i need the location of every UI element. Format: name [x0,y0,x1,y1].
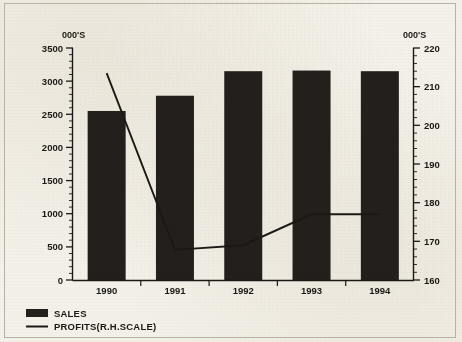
x-tick-label: 1991 [164,285,186,296]
bar-1992 [224,71,262,280]
sales-profits-combo-chart: 000'S [0,0,462,342]
right-axis-tick-labels: 220 210 200 190 180 170 160 [424,43,440,286]
right-tick-label: 160 [424,275,440,286]
left-tick-label: 3000 [42,76,63,87]
left-tick-label: 2500 [42,109,63,120]
right-tick-label: 200 [424,120,440,131]
right-axis: 000'S [403,30,440,286]
left-axis-tick-labels: 3500 3000 2500 2000 1500 1000 500 0 [42,43,63,286]
x-axis-tick-labels: 1990 1991 1992 1993 1994 [96,285,391,296]
left-tick-label: 500 [47,241,63,252]
left-axis: 000'S [42,30,85,286]
x-tick-label: 1993 [301,285,322,296]
bar-1990 [88,111,126,280]
legend-item-sales: SALES [26,308,87,319]
x-tick-label: 1994 [369,285,391,296]
chart-legend: SALES PROFITS(R.H.SCALE) [26,308,156,332]
bar-1994 [361,71,399,280]
right-tick-label: 180 [424,197,440,208]
left-tick-label: 2000 [42,142,63,153]
left-tick-label: 3500 [42,43,63,54]
legend-item-profits: PROFITS(R.H.SCALE) [26,321,156,332]
right-axis-unit-label: 000'S [403,30,426,40]
right-tick-label: 190 [424,159,440,170]
left-tick-label: 1000 [42,208,63,219]
right-tick-label: 220 [424,43,440,54]
left-axis-unit-label: 000'S [62,30,85,40]
bar-series-sales [88,71,399,280]
right-tick-label: 210 [424,81,440,92]
left-tick-label: 1500 [42,175,63,186]
legend-label-profits: PROFITS(R.H.SCALE) [54,321,156,332]
x-tick-label: 1990 [96,285,117,296]
legend-bar-swatch [26,309,48,317]
right-tick-label: 170 [424,236,440,247]
x-axis: 1990 1991 1992 1993 1994 [73,280,415,296]
bar-1991 [156,96,194,280]
left-tick-label: 0 [58,275,63,286]
legend-label-sales: SALES [54,308,87,319]
chart-page: 000'S [0,0,462,342]
bar-1993 [293,71,331,280]
x-tick-label: 1992 [233,285,254,296]
